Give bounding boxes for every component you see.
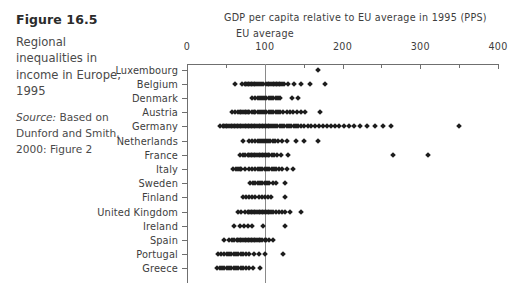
y-category-label: Sweden (0, 178, 178, 189)
x-tick-major (343, 64, 344, 69)
data-point (249, 223, 255, 229)
x-tick-label: 300 (411, 41, 430, 52)
x-tick-major (498, 64, 499, 69)
y-category-label: Austria (0, 107, 178, 118)
data-point (277, 95, 283, 101)
data-point (270, 237, 276, 243)
y-category-label: Ireland (0, 220, 178, 231)
data-point (285, 152, 291, 158)
y-tick (182, 98, 187, 99)
data-point (289, 95, 295, 101)
data-point (290, 166, 296, 172)
data-point (232, 81, 238, 87)
y-tick (182, 169, 187, 170)
data-point (291, 81, 297, 87)
x-tick-minor (381, 64, 382, 68)
x-tick-major (420, 64, 421, 69)
data-point (315, 138, 321, 144)
data-point (351, 123, 357, 129)
data-point (284, 166, 290, 172)
data-point (307, 81, 313, 87)
data-point (293, 138, 299, 144)
data-point (250, 265, 256, 271)
y-tick (182, 155, 187, 156)
y-category-label: Spain (0, 234, 178, 245)
y-tick (182, 183, 187, 184)
data-point (284, 138, 290, 144)
x-tick-label: 400 (489, 41, 508, 52)
y-tick (182, 70, 187, 71)
x-tick-label: 0 (184, 41, 190, 52)
data-point (357, 123, 363, 129)
x-tick-label: 100 (255, 41, 274, 52)
data-point (298, 81, 304, 87)
x-tick-minor (304, 64, 305, 68)
y-category-label: Belgium (0, 78, 178, 89)
y-category-label: France (0, 149, 178, 160)
data-point (281, 251, 287, 257)
data-point (257, 265, 263, 271)
y-category-label: Greece (0, 263, 178, 274)
x-tick-major (187, 64, 188, 69)
data-point (425, 152, 431, 158)
y-axis-line (187, 64, 188, 283)
y-category-label: Germany (0, 121, 178, 132)
y-tick (182, 212, 187, 213)
data-point (282, 180, 288, 186)
data-point (456, 123, 462, 129)
data-point (298, 209, 304, 215)
data-point (302, 109, 308, 115)
data-point (278, 152, 284, 158)
data-point (323, 81, 329, 87)
data-point (365, 123, 371, 129)
y-category-label: Luxembourg (0, 64, 178, 75)
y-tick (182, 240, 187, 241)
y-category-label: Netherlands (0, 135, 178, 146)
data-point (317, 109, 323, 115)
data-point (282, 223, 288, 229)
data-point (390, 152, 396, 158)
figure-container: Figure 16.5 Regional inequalities in inc… (0, 0, 529, 304)
chart-title: GDP per capita relative to EU average in… (224, 12, 487, 23)
y-tick (182, 254, 187, 255)
eu-average-annotation-label: EU average (236, 28, 294, 39)
x-tick-minor (459, 64, 460, 68)
y-category-label: United Kingdom (0, 206, 178, 217)
y-tick (182, 84, 187, 85)
data-point (256, 251, 262, 257)
data-point (262, 251, 268, 257)
y-tick (182, 226, 187, 227)
y-category-label: Denmark (0, 92, 178, 103)
data-point (231, 223, 237, 229)
y-tick (182, 141, 187, 142)
x-tick-minor (226, 64, 227, 68)
data-point (316, 67, 322, 73)
y-category-label: Portugal (0, 249, 178, 260)
y-tick (182, 126, 187, 127)
y-category-label: Italy (0, 163, 178, 174)
data-point (288, 209, 294, 215)
x-tick-label: 200 (333, 41, 352, 52)
data-point (282, 194, 288, 200)
y-category-label: Finland (0, 192, 178, 203)
data-point (380, 123, 386, 129)
data-point (295, 95, 301, 101)
scatter-plot: GDP per capita relative to EU average in… (0, 0, 529, 304)
data-point (388, 123, 394, 129)
y-tick (182, 112, 187, 113)
data-point (372, 123, 378, 129)
y-tick (182, 197, 187, 198)
data-point (301, 138, 307, 144)
y-tick (182, 268, 187, 269)
data-point (268, 194, 274, 200)
